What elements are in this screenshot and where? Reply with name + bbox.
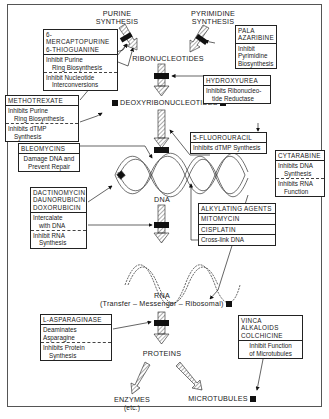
purine-flow-arrow	[119, 24, 137, 50]
drug-box-pala: PALAAZARIBINE InhibitPyrimidineBiosynthe…	[235, 25, 277, 69]
node-enzymes: ENZYMES (etc.)	[108, 396, 156, 412]
node-proteins: PROTEINS	[140, 350, 184, 358]
inhibition-marker	[250, 396, 256, 402]
drug-box-bleomycins: BLEOMYCINS Damage DNA andPrevent Repair	[18, 143, 80, 172]
drug-box-fluorouracil: 5-FLUOROURACIL Inhibits dTMP Synthesis	[190, 132, 267, 154]
inhibition-marker	[226, 301, 232, 307]
protein-to-enzymes-arrow	[131, 362, 150, 394]
protein-to-microtubules-arrow	[176, 362, 202, 390]
node-ribonucleotides: RIBONUCLEOTIDES	[128, 55, 208, 63]
deoxy-to-dna-arrow	[154, 110, 169, 153]
drug-box-hydroxyurea: HYDROXYUREA Inhibits Ribonucleo-tide Red…	[203, 75, 271, 104]
dna-to-rna-arrow	[154, 205, 169, 243]
pyrimidine-flow-arrow	[190, 25, 209, 52]
inhibition-marker	[112, 100, 118, 106]
node-microtubules: MICROTUBULES	[182, 395, 262, 403]
node-purine-synthesis: PURINE SYNTHESIS	[93, 10, 141, 26]
drug-box-mercaptopurine: 6-MERCAPTOPURINE6-THIOGUANINE Inhibit Pu…	[43, 29, 118, 91]
dna-helix	[115, 153, 248, 197]
rna-to-protein-arrow	[154, 312, 169, 344]
drug-box-vinca: VINCA ALKALOIDSCOLCHICINE Inhibit Functi…	[238, 315, 303, 359]
drug-box-cytarabine: CYTARABINE Inhibits DNASynthesis Inhibit…	[275, 150, 325, 197]
drug-box-alkylating: ALKYLATING AGENTS MITOMYCIN CISPLATIN Cr…	[198, 203, 276, 246]
drug-box-asparaginase: L-ASPARAGINASE Deaminates Asparagine Inh…	[40, 314, 112, 361]
node-rna-types: (Transfer – Messenger – Ribosomal)	[100, 300, 230, 308]
drug-box-methotrexate: METHOTREXATE Inhibits PurineRing Biosynt…	[5, 95, 79, 142]
node-pyrimidine-synthesis: PYRIMIDINE SYNTHESIS	[183, 10, 243, 26]
ribo-to-deoxy-arrow	[154, 64, 169, 96]
drug-box-dactinomycin: DACTINOMYCINDAUNORUBICINDOXORUBICIN Inte…	[30, 187, 87, 249]
node-dna: DNA	[148, 196, 176, 204]
